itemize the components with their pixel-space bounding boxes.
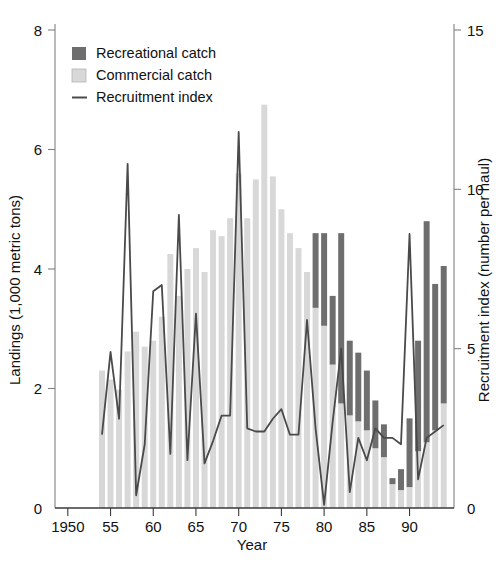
y2-tick-label: 0 — [467, 500, 475, 517]
y2-tick-label: 15 — [467, 22, 484, 39]
bar-commercial — [193, 248, 199, 508]
bar-recreational — [407, 418, 413, 487]
bar-commercial — [159, 317, 165, 508]
bar-commercial — [381, 457, 387, 508]
bar-commercial — [253, 179, 259, 508]
x-tick-label: 60 — [145, 518, 162, 535]
bar-commercial — [296, 248, 302, 508]
bar-commercial — [304, 272, 310, 508]
bar-commercial — [441, 403, 447, 508]
y-tick-label: 6 — [34, 141, 42, 158]
y-tick-label: 2 — [34, 380, 42, 397]
bar-recreational — [372, 400, 378, 448]
bar-commercial — [432, 430, 438, 508]
y2-axis-title: Recruitment index (number per haul) — [475, 158, 492, 402]
bar-commercial — [219, 236, 225, 508]
bar-commercial — [202, 272, 208, 508]
bar-recreational — [321, 233, 327, 326]
bar-recreational — [441, 266, 447, 403]
bar-recreational — [347, 341, 353, 416]
x-tick-label: 85 — [358, 518, 375, 535]
x-tick-label: 80 — [316, 518, 333, 535]
x-axis-title: Year — [237, 536, 267, 553]
bar-commercial — [364, 430, 370, 508]
legend-label: Recreational catch — [96, 45, 216, 61]
y-tick-label: 0 — [34, 500, 42, 517]
bar-commercial — [99, 371, 105, 508]
x-tick-label: 90 — [401, 518, 418, 535]
bar-recreational — [330, 296, 336, 365]
bar-commercial — [287, 233, 293, 508]
bar-recreational — [389, 478, 395, 484]
legend-swatch-commercial — [72, 69, 86, 82]
x-tick-label: 75 — [273, 518, 290, 535]
bar-commercial — [389, 484, 395, 508]
bar-commercial — [142, 347, 148, 508]
bar-recreational — [424, 221, 430, 442]
x-tick-label: 70 — [230, 518, 247, 535]
bar-recreational — [432, 284, 438, 430]
bar-commercial — [270, 176, 276, 508]
legend-swatch-recreational — [72, 47, 86, 60]
bar-recreational — [313, 233, 319, 308]
chart-container: 0246805101519505560657075808590 Recreati… — [0, 0, 502, 566]
legend-label: Commercial catch — [96, 67, 212, 83]
bar-commercial — [125, 351, 131, 508]
bar-commercial — [210, 230, 216, 508]
bar-recreational — [398, 469, 404, 490]
bar-commercial — [108, 380, 114, 508]
x-tick-label: 55 — [102, 518, 119, 535]
bar-commercial — [338, 403, 344, 508]
bar-commercial — [150, 341, 156, 508]
bar-recreational — [381, 424, 387, 457]
bar-recreational — [355, 353, 361, 422]
bar-commercial — [372, 448, 378, 508]
bar-commercial — [355, 421, 361, 508]
bar-commercial — [261, 105, 267, 508]
bar-commercial — [176, 296, 182, 508]
y-axis-title: Landings (1,000 metric tons) — [6, 195, 23, 385]
bar-commercial — [407, 487, 413, 508]
y-tick-label: 8 — [34, 22, 42, 39]
landings-recruitment-chart: 0246805101519505560657075808590 Recreati… — [0, 0, 502, 566]
bar-recreational — [364, 371, 370, 431]
legend-label: Recruitment index — [96, 89, 214, 105]
x-tick-label: 65 — [188, 518, 205, 535]
y-tick-label: 4 — [34, 261, 42, 278]
x-tick-label: 1950 — [51, 518, 84, 535]
bar-commercial — [278, 209, 284, 508]
bar-commercial — [398, 490, 404, 508]
